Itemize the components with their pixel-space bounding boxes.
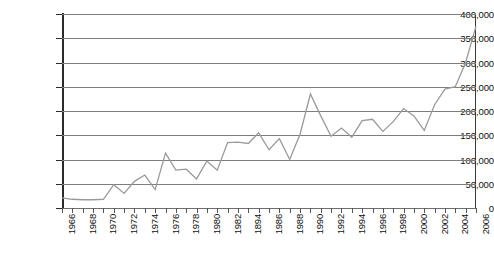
line-chart: 400,000350,000300,000250,000200,000150,0… xyxy=(0,0,494,256)
x-axis-tick-mark xyxy=(217,208,218,213)
x-axis-tick-mark xyxy=(373,208,374,213)
x-axis-tick-mark xyxy=(404,208,405,213)
x-axis-tick-mark xyxy=(352,208,353,213)
x-axis-tick-mark xyxy=(310,208,311,213)
x-axis-tick-label: 1968 xyxy=(87,214,98,234)
x-axis-tick-mark xyxy=(83,208,84,213)
x-axis-tick-label: 1982 xyxy=(232,214,243,234)
x-axis-tick-mark xyxy=(383,208,384,213)
x-axis-tick-mark xyxy=(435,208,436,213)
x-axis-tick-mark xyxy=(155,208,156,213)
x-axis-tick-mark xyxy=(134,208,135,213)
x-axis-tick-label: 1894 xyxy=(252,214,263,234)
x-axis-tick-label: 1972 xyxy=(128,214,139,234)
x-axis-tick-mark xyxy=(145,208,146,213)
x-axis-tick-label: 1992 xyxy=(335,214,346,234)
x-axis-tick-label: 1976 xyxy=(170,214,181,234)
x-axis-tick-mark xyxy=(414,208,415,213)
x-axis-tick-mark xyxy=(362,208,363,213)
x-axis-tick-mark xyxy=(166,208,167,213)
x-axis-tick-mark xyxy=(186,208,187,213)
x-axis-tick-label: 1986 xyxy=(273,214,284,234)
x-axis-tick-mark xyxy=(445,208,446,213)
plot-area xyxy=(62,14,476,208)
x-axis-tick-label: 1980 xyxy=(211,214,222,234)
x-axis-tick-label: 1994 xyxy=(356,214,367,234)
x-axis-tick-mark xyxy=(228,208,229,213)
x-axis-tick-label: 2002 xyxy=(439,214,450,234)
x-axis-tick-mark xyxy=(259,208,260,213)
x-axis-tick-label: 1966 xyxy=(66,214,77,234)
x-axis-tick-mark xyxy=(62,208,63,213)
x-axis-tick-label: 1996 xyxy=(377,214,388,234)
x-axis-tick-mark xyxy=(300,208,301,213)
x-axis-tick-mark xyxy=(72,208,73,213)
x-axis-tick-mark xyxy=(238,208,239,213)
series-polyline xyxy=(62,26,476,200)
x-axis-tick-mark xyxy=(103,208,104,213)
x-axis-tick-label: 1974 xyxy=(149,214,160,234)
x-axis-tick-mark xyxy=(93,208,94,213)
x-axis-tick-mark xyxy=(476,208,477,213)
x-axis-tick-mark xyxy=(466,208,467,213)
x-axis-tick-mark xyxy=(290,208,291,213)
x-axis-tick-mark xyxy=(341,208,342,213)
x-axis-tick-mark xyxy=(424,208,425,213)
x-axis-tick-label: 1978 xyxy=(190,214,201,234)
x-axis-tick-label: 2006 xyxy=(480,214,491,234)
x-axis-tick-mark xyxy=(321,208,322,213)
x-axis-tick-mark xyxy=(197,208,198,213)
x-axis-tick-mark xyxy=(124,208,125,213)
x-axis-tick-mark xyxy=(393,208,394,213)
x-axis-tick-label: 1998 xyxy=(397,214,408,234)
x-axis-tick-mark xyxy=(455,208,456,213)
x-axis-tick-mark xyxy=(331,208,332,213)
x-axis-tick-label: 2000 xyxy=(418,214,429,234)
x-axis-tick-mark xyxy=(114,208,115,213)
x-axis-tick-label: 1988 xyxy=(294,214,305,234)
x-axis-tick-mark xyxy=(207,208,208,213)
data-series-line xyxy=(62,14,476,208)
x-axis-tick-label: 1990 xyxy=(314,214,325,234)
x-axis-tick-mark xyxy=(269,208,270,213)
x-axis-tick-label: 1970 xyxy=(107,214,118,234)
x-axis-tick-mark xyxy=(279,208,280,213)
x-axis-tick-mark xyxy=(248,208,249,213)
x-axis-tick-mark xyxy=(176,208,177,213)
x-axis-tick-label: 2004 xyxy=(459,214,470,234)
